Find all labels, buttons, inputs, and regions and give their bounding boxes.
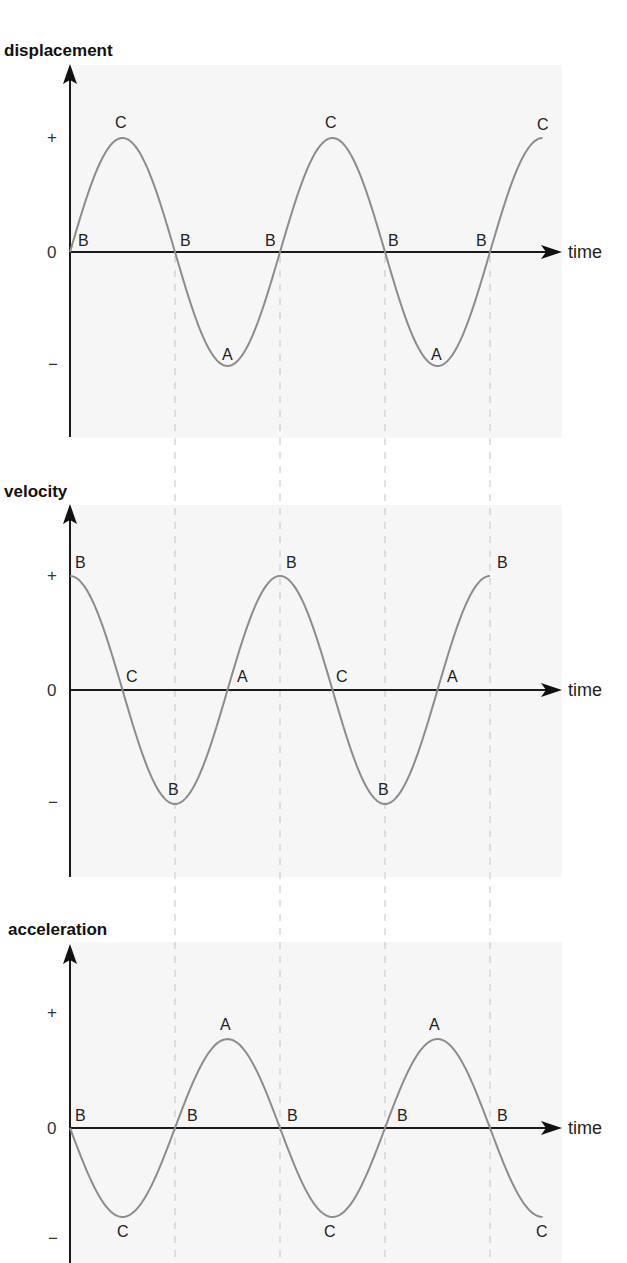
- point-label-b: B: [168, 781, 179, 798]
- shm-graphs-figure: displacement time + 0 − BCBABCBABC veloc…: [0, 0, 627, 1263]
- displacement-tick-plus: +: [47, 128, 57, 147]
- velocity-tick-zero: 0: [47, 681, 56, 700]
- point-label-b: B: [287, 1107, 298, 1124]
- point-label-b: B: [286, 554, 297, 571]
- velocity-tick-plus: +: [47, 566, 57, 585]
- displacement-title: displacement: [4, 41, 113, 60]
- point-label-c: C: [536, 1223, 548, 1240]
- point-label-a: A: [447, 668, 458, 685]
- acceleration-tick-zero: 0: [47, 1119, 56, 1138]
- point-label-c: C: [537, 116, 549, 133]
- point-label-c: C: [115, 114, 127, 131]
- point-label-a: A: [237, 668, 248, 685]
- displacement-tick-minus: −: [48, 355, 58, 374]
- point-label-a: A: [220, 1016, 231, 1033]
- displacement-time-label: time: [568, 242, 602, 262]
- point-label-b: B: [378, 781, 389, 798]
- acceleration-tick-minus: −: [48, 1229, 58, 1248]
- point-label-b: B: [397, 1107, 408, 1124]
- point-label-a: A: [222, 346, 233, 363]
- acceleration-time-label: time: [568, 1118, 602, 1138]
- velocity-tick-minus: −: [48, 793, 58, 812]
- point-label-b: B: [497, 1107, 508, 1124]
- velocity-time-label: time: [568, 680, 602, 700]
- point-label-b: B: [78, 232, 89, 249]
- point-label-c: C: [325, 114, 337, 131]
- point-label-b: B: [180, 232, 191, 249]
- velocity-title: velocity: [4, 482, 68, 501]
- point-label-b: B: [388, 232, 399, 249]
- point-label-b: B: [75, 554, 86, 571]
- acceleration-panel-background: [71, 942, 562, 1263]
- point-label-b: B: [75, 1107, 86, 1124]
- point-label-b: B: [265, 232, 276, 249]
- point-label-c: C: [336, 668, 348, 685]
- displacement-tick-zero: 0: [47, 243, 56, 262]
- point-label-a: A: [431, 346, 442, 363]
- acceleration-tick-plus: +: [47, 1003, 57, 1022]
- point-label-c: C: [117, 1223, 129, 1240]
- point-label-b: B: [187, 1107, 198, 1124]
- point-label-a: A: [429, 1016, 440, 1033]
- point-label-c: C: [126, 668, 138, 685]
- acceleration-title: acceleration: [8, 920, 107, 939]
- point-label-c: C: [324, 1223, 336, 1240]
- point-label-b: B: [476, 232, 487, 249]
- point-label-b: B: [497, 554, 508, 571]
